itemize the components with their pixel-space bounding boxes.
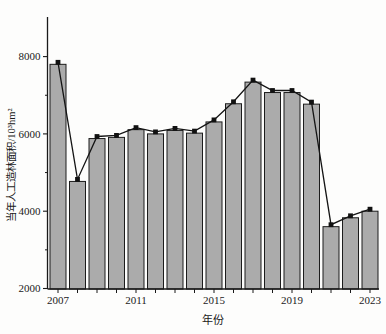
- bar-2019: [284, 93, 300, 289]
- bar-2011: [128, 130, 144, 289]
- bar-2020: [304, 104, 320, 289]
- bar-2021: [323, 227, 339, 289]
- marker-2021: [329, 222, 334, 227]
- x-tick-label-2007: 2007: [47, 294, 70, 306]
- x-tick-label-2015: 2015: [203, 294, 226, 306]
- marker-2018: [270, 88, 275, 93]
- y-tick-label-8000: 8000: [19, 50, 42, 62]
- marker-2015: [212, 118, 217, 123]
- marker-2009: [95, 134, 100, 139]
- x-axis-title: 年份: [202, 313, 224, 326]
- afforestation-chart-figure: 200040006000800020072011201520192023 年份 …: [0, 0, 386, 334]
- marker-2023: [368, 207, 373, 212]
- x-tick-label-2023: 2023: [359, 294, 382, 306]
- marker-2020: [309, 100, 314, 105]
- marker-2007: [56, 60, 61, 65]
- bar-2009: [89, 139, 105, 289]
- marker-2012: [153, 130, 158, 135]
- y-tick-label-4000: 4000: [19, 205, 42, 217]
- bar-2010: [109, 137, 125, 289]
- marker-2019: [290, 88, 295, 93]
- bar-2014: [187, 133, 203, 289]
- marker-2008: [75, 177, 80, 182]
- marker-2011: [134, 125, 139, 130]
- bar-2015: [206, 122, 222, 289]
- bar-2016: [226, 104, 242, 289]
- bars-layer: [50, 64, 378, 289]
- x-tick-label-2011: 2011: [125, 294, 147, 306]
- y-axis-title: 当年人工造林面积/10³hm²: [5, 108, 17, 221]
- marker-2010: [114, 133, 119, 138]
- marker-2022: [348, 213, 353, 218]
- bar-2008: [70, 181, 86, 289]
- bar-2023: [362, 211, 378, 289]
- y-tick-label-2000: 2000: [19, 282, 42, 294]
- bar-2018: [265, 93, 281, 289]
- marker-2016: [231, 99, 236, 104]
- bar-2013: [167, 130, 183, 289]
- marker-2014: [192, 129, 197, 134]
- bar-2017: [245, 82, 261, 289]
- marker-2017: [251, 78, 256, 83]
- bar-2012: [148, 134, 164, 289]
- marker-2013: [173, 126, 178, 131]
- afforestation-bar-line-chart: 200040006000800020072011201520192023 年份 …: [0, 0, 386, 334]
- y-tick-label-6000: 6000: [19, 128, 42, 140]
- x-tick-label-2019: 2019: [281, 294, 304, 306]
- bar-2022: [343, 218, 359, 289]
